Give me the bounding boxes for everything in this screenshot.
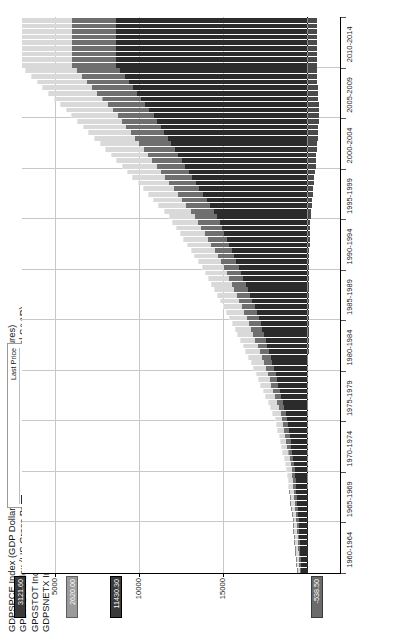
bar-segment	[307, 478, 308, 483]
time-axis-tick-label: 2010-2014	[345, 26, 354, 62]
bar-segment	[130, 130, 165, 135]
bar-segment	[294, 535, 295, 540]
last-price-badge[interactable]: 2620.00	[66, 576, 78, 618]
bar-segment	[275, 372, 308, 377]
time-axis-tick-label: 1995-1999	[345, 178, 354, 214]
bar-segment	[263, 332, 308, 337]
bar-segment	[307, 46, 317, 51]
rotated-chart-canvas: GDPSPCE Index (GDP Dollar Level Personal…	[0, 0, 400, 636]
bar-segment	[307, 383, 309, 388]
bar-segment	[288, 428, 308, 433]
bar-segment	[307, 338, 309, 343]
last-price-badge[interactable]: 3121.60	[14, 576, 26, 618]
time-axis-tick-label: 2000-2004	[345, 128, 354, 164]
bar-segment	[281, 445, 287, 450]
chart-plot-area[interactable]	[22, 17, 341, 574]
time-axis-tick-mark	[341, 320, 346, 321]
bar-segment	[143, 147, 175, 152]
bar-segment	[209, 203, 307, 208]
bar-segment	[223, 231, 307, 236]
bar-segment	[265, 338, 308, 343]
bar-segment	[245, 349, 259, 354]
bar-segment	[285, 462, 290, 467]
bar-segment	[232, 321, 249, 326]
bar-segment	[293, 462, 308, 467]
time-axis-tick-mark	[341, 573, 346, 574]
bar-segment	[268, 400, 277, 405]
bar-segment	[289, 434, 308, 439]
bar-segment	[115, 40, 307, 45]
bar-segment	[276, 400, 283, 405]
bar-segment	[112, 108, 150, 113]
bar-segment	[91, 85, 132, 90]
bar-segment	[307, 248, 310, 253]
bar-segment	[188, 170, 308, 175]
bar-segment	[115, 29, 307, 34]
bar-segment	[86, 80, 128, 85]
bar-segment	[231, 282, 246, 287]
bar-segment	[198, 259, 221, 264]
bar-segment	[115, 63, 307, 68]
bar-segment	[177, 153, 307, 158]
bar-segment	[71, 18, 116, 23]
bar-segment	[307, 181, 314, 186]
bar-segment	[217, 293, 237, 298]
bar-segment	[307, 434, 308, 439]
bar-segment	[208, 276, 230, 281]
last-price-badge[interactable]: 11430.30	[110, 576, 122, 618]
bar-segment	[121, 119, 157, 124]
bar-segment	[202, 192, 308, 197]
bar-segment	[180, 231, 205, 236]
bar-segment	[294, 473, 307, 478]
bar-segment	[219, 220, 308, 225]
bar-segment	[128, 80, 308, 85]
bar-segment	[115, 46, 307, 51]
bar-segment	[168, 181, 196, 186]
bar-segment	[297, 512, 307, 517]
bar-segment	[300, 563, 308, 568]
bar-segment	[204, 231, 225, 236]
bar-segment	[258, 377, 270, 382]
time-axis[interactable]: 1960-19641965-19691970-19741975-19791980…	[341, 18, 381, 574]
bar-segment	[231, 248, 308, 253]
bar-segment	[217, 254, 234, 259]
bar-segment	[181, 198, 206, 203]
bar-segment	[263, 389, 273, 394]
bar-segment	[42, 85, 92, 90]
bar-segment	[282, 400, 308, 405]
last-price-badge[interactable]: -538.50	[311, 576, 323, 618]
bar-segment	[153, 113, 308, 118]
bar-segment	[265, 366, 274, 371]
bar-segment	[307, 316, 310, 321]
bar-segment	[251, 299, 307, 304]
bar-segment	[307, 68, 317, 73]
bar-segment	[233, 288, 247, 293]
bar-segment	[307, 63, 317, 68]
time-axis-tick-mark	[341, 17, 346, 18]
bar-segment	[307, 125, 319, 130]
bar-segment	[169, 214, 195, 219]
bar-segment	[307, 24, 317, 29]
bar-segment	[160, 125, 308, 130]
bar-segment	[307, 164, 316, 169]
bar-segment	[276, 377, 308, 382]
bar-segment	[307, 214, 311, 219]
bar-segment	[237, 332, 253, 337]
bar-segment	[247, 288, 308, 293]
bar-segment	[77, 119, 122, 124]
bar-segment	[250, 327, 262, 332]
bar-segment	[265, 394, 275, 399]
bar-segment	[307, 372, 309, 377]
bar-segment	[307, 484, 308, 489]
bar-segment	[307, 344, 309, 349]
bar-segment	[22, 46, 72, 51]
bar-segment	[194, 214, 217, 219]
bar-segment	[299, 540, 308, 545]
bar-segment	[71, 57, 116, 62]
bar-segment	[22, 29, 72, 34]
bar-segment	[290, 439, 308, 444]
bar-segment	[71, 46, 116, 51]
bar-segment	[307, 405, 308, 410]
bar-segment	[299, 551, 307, 556]
bar-segment	[100, 141, 140, 146]
